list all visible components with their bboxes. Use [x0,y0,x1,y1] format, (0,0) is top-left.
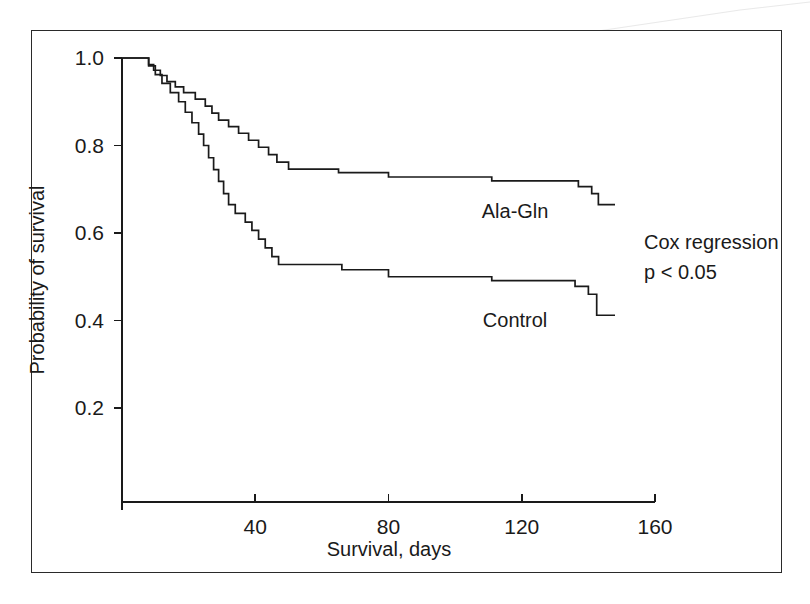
series-label-control: Control [483,309,547,331]
y-tick-label: 0.2 [75,396,104,419]
x-tick-label: 160 [637,515,672,538]
figure-root: 1.0 0.8 0.6 0.4 0.2 40 80 120 160 Surviv… [0,0,810,604]
x-tick-label: 40 [244,515,267,538]
y-tick-label: 0.8 [75,134,104,157]
y-tick-label: 0.6 [75,221,104,244]
cox-regression-annotation-line2: p < 0.05 [644,261,717,283]
x-axis-title: Survival, days [327,538,452,560]
survival-chart: 1.0 0.8 0.6 0.4 0.2 40 80 120 160 Surviv… [0,0,810,604]
y-tick-label: 0.4 [75,309,105,332]
survival-curve-ala-gln [122,58,615,205]
y-axis-title: Probability of survival [26,186,48,375]
x-tick-label: 120 [504,515,539,538]
curves-group [122,58,615,315]
y-tick-label: 1.0 [75,46,104,69]
x-tick-label: 80 [377,515,400,538]
axes-group [114,58,655,510]
cox-regression-annotation-line1: Cox regression [644,231,779,253]
series-label-ala-gln: Ala-Gln [482,200,549,222]
